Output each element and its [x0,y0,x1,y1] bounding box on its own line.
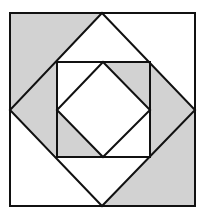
square-diamond-diagram [0,0,211,224]
